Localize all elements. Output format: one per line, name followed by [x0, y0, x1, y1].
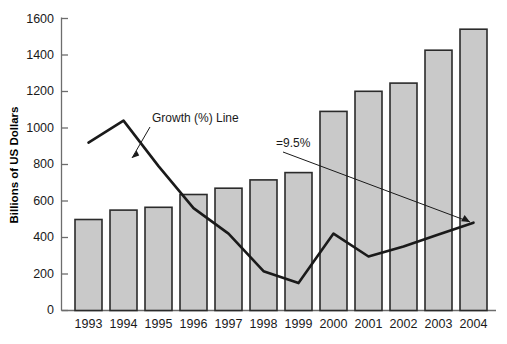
x-tick-label: 2001 — [355, 317, 383, 331]
y-axis-title: Billions of US Dollars — [8, 107, 20, 224]
x-tick-label: 1994 — [110, 317, 138, 331]
annotation-growth-label: Growth (%) Line — [152, 111, 239, 125]
x-tick-label: 1996 — [180, 317, 208, 331]
bar-1998 — [250, 180, 277, 311]
x-tick-label: 1999 — [285, 317, 313, 331]
y-tick-label: 1200 — [26, 84, 54, 98]
x-tick-label: 1997 — [215, 317, 243, 331]
bar-2000 — [320, 111, 347, 310]
bar-series — [75, 29, 487, 310]
y-tick-label: 600 — [33, 194, 54, 208]
annotation-rate-label: =9.5% — [276, 136, 311, 150]
bar-1997 — [215, 188, 242, 310]
x-tick-label: 2004 — [460, 317, 488, 331]
y-tick-label: 1600 — [26, 12, 54, 26]
chart-canvas: Billions of US Dollars 1600 1400 1200 10… — [0, 0, 507, 344]
y-tick-label: 1400 — [26, 48, 54, 62]
bar-1999 — [285, 173, 312, 311]
x-axis-tick-labels: 1993 1994 1995 1996 1997 1998 1999 2000 … — [75, 317, 488, 331]
y-tick-label: 0 — [47, 303, 54, 317]
x-tick-label: 1995 — [145, 317, 173, 331]
bar-1994 — [110, 210, 137, 310]
y-tick-label: 400 — [33, 230, 54, 244]
y-tick-label: 1000 — [26, 121, 54, 135]
x-tick-label: 2003 — [425, 317, 453, 331]
bar-2001 — [355, 91, 382, 310]
y-axis-line — [62, 18, 69, 311]
y-axis-tick-labels: 1600 1400 1200 1000 800 600 400 200 0 — [26, 12, 54, 317]
x-tick-label: 2002 — [390, 317, 418, 331]
bar-1996 — [180, 195, 207, 311]
y-tick-label: 200 — [33, 267, 54, 281]
x-tick-label: 1998 — [250, 317, 278, 331]
y-tick-label: 800 — [33, 157, 54, 171]
growth-bar-line-chart: Billions of US Dollars 1600 1400 1200 10… — [0, 0, 507, 344]
bar-2004 — [460, 29, 487, 310]
bar-1993 — [75, 220, 102, 311]
bar-1995 — [145, 207, 172, 310]
bar-2003 — [425, 50, 452, 310]
x-tick-label: 1993 — [75, 317, 103, 331]
x-tick-label: 2000 — [320, 317, 348, 331]
